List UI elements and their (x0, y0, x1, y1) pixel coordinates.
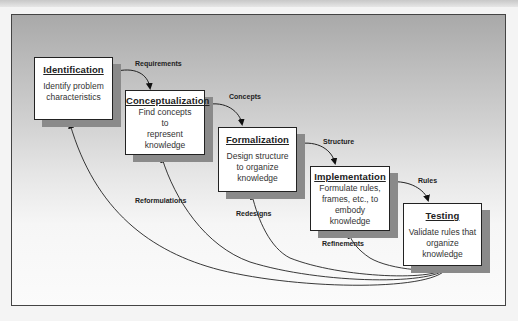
label-reformulations: Reformulations (135, 197, 186, 204)
label-redesigns: Redesigns (236, 210, 271, 217)
stage-title: Testing (404, 210, 481, 221)
stage-title: Conceptualization (126, 95, 204, 106)
stage-testing: Testing Validate rules that organize kno… (403, 203, 482, 266)
stage-conceptualization: Conceptualization Find concepts to repre… (125, 90, 205, 155)
stage-title: Formalization (219, 134, 296, 145)
stage-title: Identification (35, 64, 112, 75)
label-requirements: Requirements (135, 60, 182, 67)
stage-identification: Identification Identify problem characte… (34, 57, 113, 120)
label-rules: Rules (418, 177, 437, 184)
stage-title: Implementation (311, 171, 389, 182)
label-refinements: Refinements (322, 240, 364, 247)
label-structure: Structure (323, 138, 354, 145)
stage-implementation: Implementation Formulate rules, frames, … (310, 166, 390, 231)
label-concepts: Concepts (229, 93, 261, 100)
stage-formalization: Formalization Design structure to organi… (218, 127, 297, 192)
arrow-concepts (205, 104, 242, 124)
arrow-requirements (113, 70, 150, 88)
arrow-structure (297, 143, 335, 163)
arrow-rules (390, 182, 428, 200)
